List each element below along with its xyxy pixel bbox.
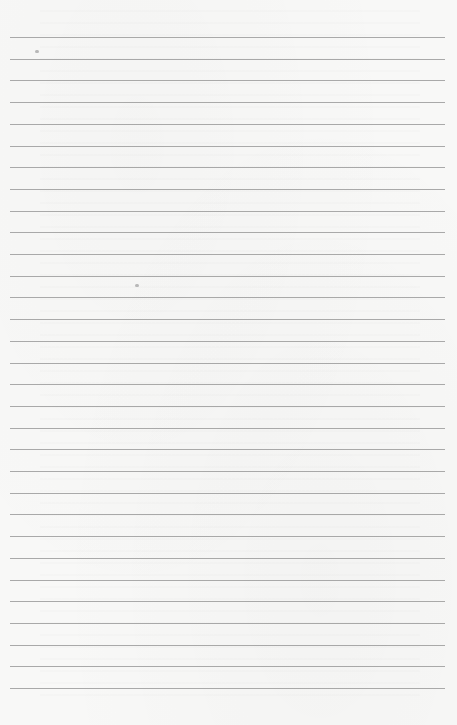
ruled-line <box>10 37 445 38</box>
smudge-middle <box>135 284 139 287</box>
ruled-line <box>10 428 445 429</box>
ruled-line <box>10 167 445 168</box>
ruled-line <box>10 688 445 689</box>
ruled-line <box>10 623 445 624</box>
smudge-top-left <box>35 50 39 53</box>
ruled-line <box>10 254 445 255</box>
ruled-line <box>10 363 445 364</box>
ruled-line <box>10 666 445 667</box>
ruled-line <box>10 449 445 450</box>
ruled-line <box>10 319 445 320</box>
lined-page <box>0 0 457 725</box>
ruled-line <box>10 211 445 212</box>
ruled-line <box>10 601 445 602</box>
ruled-line <box>10 80 445 81</box>
ruled-line <box>10 580 445 581</box>
ruled-line <box>10 471 445 472</box>
ruled-line <box>10 146 445 147</box>
ruled-line <box>10 189 445 190</box>
ruled-line <box>10 536 445 537</box>
ruled-line <box>10 59 445 60</box>
ruled-line <box>10 124 445 125</box>
ruled-line <box>10 232 445 233</box>
ruled-line <box>10 102 445 103</box>
ruled-line <box>10 514 445 515</box>
ruled-line <box>10 384 445 385</box>
ruled-line <box>10 297 445 298</box>
ruled-line <box>10 341 445 342</box>
ruled-line <box>10 558 445 559</box>
ruled-line <box>10 645 445 646</box>
ruled-line <box>10 493 445 494</box>
ruled-line <box>10 406 445 407</box>
ruled-line <box>10 276 445 277</box>
